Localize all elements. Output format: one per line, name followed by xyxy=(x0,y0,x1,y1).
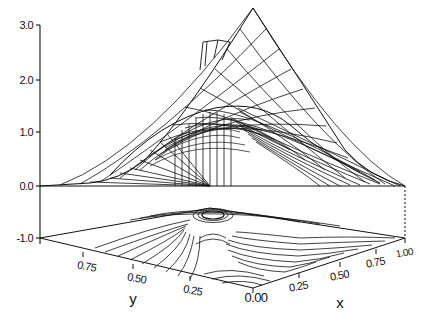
z-tick-3: 3.0 xyxy=(20,19,34,31)
y-tick-labels: 0.75 0.50 0.25 xyxy=(76,259,203,298)
z-axis xyxy=(36,25,40,244)
z-tick-1: 1.0 xyxy=(20,126,34,138)
x-axis-title: x xyxy=(336,294,344,311)
x-tick-0.75: 0.75 xyxy=(365,254,386,269)
z-tick-labels: 3.0 2.0 1.0 0.0 -1.0 xyxy=(16,19,33,244)
x-tick-0.00: 0.00 xyxy=(245,290,268,305)
y-tick-0.25: 0.25 xyxy=(182,283,203,298)
wireframe-surface xyxy=(40,8,405,186)
x-tick-labels: 0.00 0.25 0.50 0.75 1.00 xyxy=(245,245,415,305)
z-tick-neg1: -1.0 xyxy=(16,232,33,244)
surface-plot: 3.0 2.0 1.0 0.0 -1.0 xyxy=(0,0,423,319)
z-tick-2: 2.0 xyxy=(20,74,34,86)
contour-plane xyxy=(40,208,405,288)
y-tick-0.75: 0.75 xyxy=(76,259,97,274)
z-tick-0: 0.0 xyxy=(20,180,34,192)
x-tick-1.00: 1.00 xyxy=(395,245,415,259)
y-axis-title: y xyxy=(129,290,137,307)
y-tick-0.50: 0.50 xyxy=(126,271,147,286)
x-tick-0.50: 0.50 xyxy=(329,267,350,282)
x-tick-0.25: 0.25 xyxy=(288,278,309,293)
